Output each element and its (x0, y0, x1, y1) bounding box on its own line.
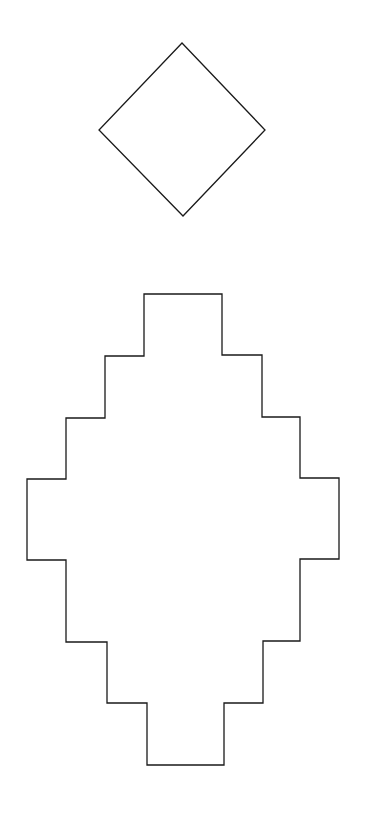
stepped-diamond-shape (27, 294, 339, 765)
diagram-canvas (0, 0, 367, 816)
diamond-shape (99, 43, 265, 216)
